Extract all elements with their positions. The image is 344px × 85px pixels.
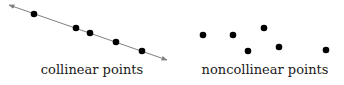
noncollinear-points [200, 25, 330, 55]
noncollinear-label: noncollinear points [202, 62, 329, 77]
collinear-label: collinear points [41, 62, 143, 77]
collinear-point [87, 30, 94, 37]
collinear-point [139, 48, 146, 55]
collinear-point [73, 25, 80, 32]
collinear-points [31, 11, 146, 55]
noncollinear-point [261, 25, 268, 32]
noncollinear-point [230, 32, 237, 39]
noncollinear-point [323, 47, 330, 54]
noncollinear-point [245, 48, 252, 55]
noncollinear-point [276, 44, 283, 51]
collinear-group [9, 5, 167, 60]
collinear-point [31, 11, 38, 18]
noncollinear-point [200, 32, 207, 39]
collinear-point [113, 39, 120, 46]
